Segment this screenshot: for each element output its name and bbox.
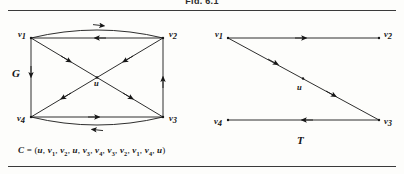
arrow-u-to-v3-diagonal: [123, 93, 131, 98]
vertex-dot-t-u: [302, 77, 304, 79]
cycle-vertex: v2: [60, 145, 68, 155]
vertex-dot-t-v2: [378, 37, 380, 39]
edge-v3-to-v4-outer-arc: [31, 117, 163, 125]
graph-label-g: G: [12, 67, 20, 79]
cycle-vertex: v1: [132, 145, 140, 155]
vertex-dot-g-v2: [162, 37, 164, 39]
figure-page: Fig. 6.1: [0, 0, 404, 174]
bottom-horizontal-rule: [8, 166, 396, 167]
vertex-dot-t-v1: [227, 37, 229, 39]
arrow-t-v1-to-u: [268, 59, 276, 63]
arrow-t-u-to-v3: [326, 91, 334, 95]
cycle-sequence: u, v1, v2, u, v3, v4, v3, v2, v1, v4, u: [38, 145, 163, 155]
vertex-dot-g-v1: [30, 37, 32, 39]
label-g-u: u: [94, 78, 99, 88]
cycle-close-paren: ): [162, 145, 165, 155]
arrow-v1-to-v2-outer: [93, 25, 102, 26]
label-t-u: u: [297, 82, 302, 92]
arrow-v3-to-v4-outer: [94, 130, 103, 131]
vertex-dot-g-v4: [30, 116, 32, 118]
label-t-v4: v4: [214, 116, 222, 128]
edge-v1-to-v2-outer-arc: [31, 30, 163, 38]
cycle-vertex: v4: [95, 145, 103, 155]
label-g-v1: v1: [18, 29, 26, 41]
label-g-v3: v3: [169, 113, 178, 125]
label-g-v4: v4: [17, 113, 25, 125]
cycle-name: C: [18, 145, 24, 155]
vertex-dot-t-v3: [378, 119, 380, 121]
label-t-v2: v2: [384, 29, 393, 41]
arrow-u-to-v4-diagonal: [63, 93, 71, 98]
label-t-v1: v1: [215, 29, 223, 41]
cycle-caption: C = (u, v1, v2, u, v3, v4, v3, v2, v1, v…: [18, 145, 166, 157]
arrow-v1-to-u-diagonal: [61, 56, 69, 61]
graph-t: v1 v2 v3 v4 u T: [214, 29, 393, 146]
cycle-equals: =: [27, 145, 32, 155]
label-g-v2: v2: [169, 29, 178, 41]
graph-label-t: T: [297, 134, 305, 146]
label-t-v3: v3: [384, 116, 393, 128]
arrow-v2-to-u-diagonal: [125, 56, 133, 61]
graph-g: v1 v2 v3 v4 u G: [12, 25, 178, 131]
cycle-vertex: v3: [107, 145, 115, 155]
vertex-dot-t-v4: [227, 119, 229, 121]
vertex-dot-g-v3: [162, 116, 164, 118]
